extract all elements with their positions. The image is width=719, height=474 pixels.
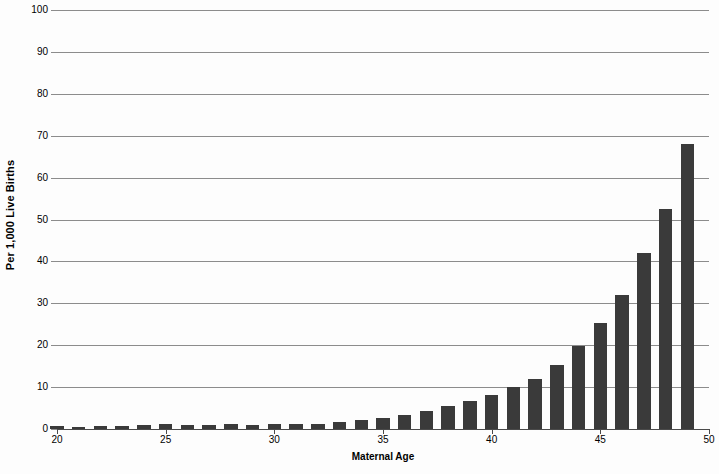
x-tick-label: 25 <box>160 435 171 445</box>
x-tick-label: 30 <box>269 435 280 445</box>
bar <box>441 406 454 429</box>
x-tick-label: 35 <box>377 435 388 445</box>
bar <box>355 420 368 429</box>
y-tick-label: 100 <box>31 5 48 15</box>
bar <box>398 415 411 429</box>
x-tick-label: 40 <box>486 435 497 445</box>
x-tick-label: 45 <box>595 435 606 445</box>
bar <box>550 365 563 429</box>
y-axis-title-label: Per 1,000 Live Births <box>4 160 16 270</box>
bar <box>333 422 346 429</box>
y-tick-label: 40 <box>37 256 48 266</box>
x-tick-label: 20 <box>51 435 62 445</box>
y-tick-label: 50 <box>37 215 48 225</box>
bar <box>528 379 541 429</box>
bar <box>659 209 672 429</box>
x-axis: 20253035404550 <box>57 429 709 449</box>
y-tick-label: 20 <box>37 340 48 350</box>
y-tick-label: 30 <box>37 298 48 308</box>
bar <box>615 295 628 429</box>
bar <box>463 401 476 429</box>
y-tick-label: 10 <box>37 382 48 392</box>
x-tick-label: 50 <box>703 435 714 445</box>
bar <box>376 418 389 429</box>
bar-series <box>57 10 709 429</box>
bar <box>420 411 433 429</box>
y-tick-label: 90 <box>37 47 48 57</box>
bar <box>485 395 498 429</box>
bar <box>637 253 650 429</box>
plot-area: 0102030405060708090100 <box>57 10 709 429</box>
y-tick-label: 70 <box>37 131 48 141</box>
x-axis-title: Maternal Age <box>57 451 709 462</box>
bar <box>572 346 585 429</box>
chart-figure: Per 1,000 Live Births 010203040506070809… <box>0 0 719 474</box>
bar <box>594 323 607 429</box>
y-tick-label: 60 <box>37 173 48 183</box>
bar <box>681 144 694 429</box>
y-axis-title: Per 1,000 Live Births <box>0 0 20 430</box>
y-tick-label: 80 <box>37 89 48 99</box>
y-tick-label: 0 <box>42 424 48 434</box>
bar <box>507 387 520 429</box>
